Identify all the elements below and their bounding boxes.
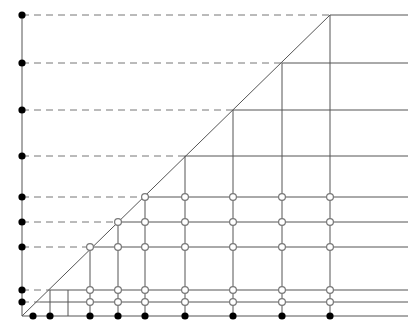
open-lattice-point-11 [230,299,237,306]
open-lattice-point-15 [115,244,122,251]
open-lattice-point-13 [327,299,334,306]
filled-point-x-axis-3 [114,312,121,319]
open-lattice-point-2 [142,287,149,294]
filled-point-y-axis-1 [18,59,25,66]
open-lattice-point-9 [142,299,149,306]
filled-point-y-axis-3 [18,152,25,159]
filled-point-y-axis-6 [18,243,25,250]
diagonal-boundary-group [22,15,330,316]
filled-point-y-axis-5 [18,218,25,225]
open-lattice-point-0 [87,287,94,294]
open-lattice-point-18 [230,244,237,251]
open-lattice-point-22 [142,219,149,226]
vertical-lines-group [50,15,330,316]
open-lattice-point-4 [230,287,237,294]
open-lattice-point-17 [182,244,189,251]
open-lattice-point-1 [115,287,122,294]
open-lattice-point-6 [327,287,334,294]
solid-gridlines-group [40,15,408,302]
open-lattice-point-3 [182,287,189,294]
open-lattice-point-7 [87,299,94,306]
open-lattice-point-26 [327,219,334,226]
filled-point-y-axis-8 [18,298,25,305]
filled-point-x-axis-8 [326,312,333,319]
filled-point-x-axis-0 [29,312,36,319]
diagonal-boundary-line [22,15,330,316]
filled-point-x-axis-6 [229,312,236,319]
open-lattice-point-12 [279,299,286,306]
open-lattice-point-5 [279,287,286,294]
filled-point-x-axis-4 [141,312,148,319]
lattice-diagram-canvas [0,0,420,332]
axes-group [22,15,408,316]
open-lattice-points-group [87,194,334,306]
open-lattice-point-25 [279,219,286,226]
open-lattice-point-21 [115,219,122,226]
dashed-gridlines-group [22,15,330,302]
filled-point-x-axis-2 [86,312,93,319]
filled-point-y-axis-2 [18,106,25,113]
filled-point-y-axis-7 [18,286,25,293]
lattice-figure [0,0,420,332]
open-lattice-point-28 [182,194,189,201]
open-lattice-point-16 [142,244,149,251]
open-lattice-point-19 [279,244,286,251]
open-lattice-point-14 [87,244,94,251]
open-lattice-point-30 [279,194,286,201]
filled-point-y-axis-0 [18,11,25,18]
filled-point-y-axis-4 [18,193,25,200]
open-lattice-point-29 [230,194,237,201]
open-lattice-point-20 [327,244,334,251]
open-lattice-point-8 [115,299,122,306]
open-lattice-point-24 [230,219,237,226]
open-lattice-point-10 [182,299,189,306]
filled-point-x-axis-5 [181,312,188,319]
filled-point-x-axis-7 [278,312,285,319]
open-lattice-point-31 [327,194,334,201]
open-lattice-point-27 [142,194,149,201]
open-lattice-point-23 [182,219,189,226]
filled-point-x-axis-1 [46,312,53,319]
